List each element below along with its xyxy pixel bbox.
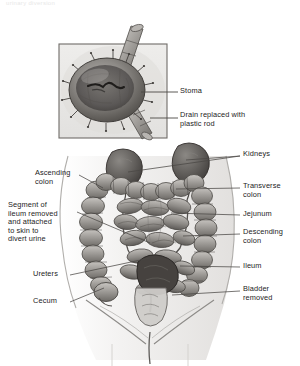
- stoma-inset-group: [59, 23, 167, 141]
- label-stoma: Stoma: [180, 87, 202, 96]
- label-ascending-colon: Ascending colon: [35, 169, 70, 186]
- label-ileum-segment: Segment of ileum removed and attached to…: [8, 201, 58, 244]
- label-drain-rod: Drain replaced with plastic rod: [180, 111, 245, 128]
- label-ileum: Ileum: [243, 262, 262, 271]
- label-descending-colon: Descending colon: [243, 228, 283, 245]
- torso-group: [60, 143, 234, 366]
- label-cecum: Cecum: [33, 297, 57, 306]
- label-ureters: Ureters: [33, 270, 58, 279]
- jejunum-coils: [113, 196, 196, 249]
- label-bladder-removed: Bladder removed: [243, 285, 272, 302]
- label-jejunum: Jejunum: [243, 210, 272, 219]
- label-kidneys: Kidneys: [243, 150, 270, 159]
- label-transverse-colon: Transverse colon: [243, 182, 281, 199]
- medical-illustration: urinary diversion: [0, 0, 300, 366]
